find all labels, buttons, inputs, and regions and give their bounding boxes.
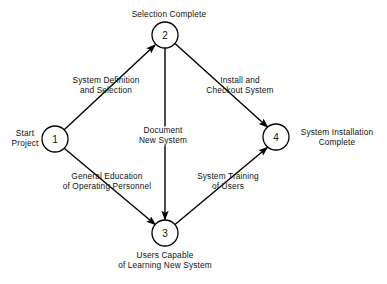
edge-1-to-2 [64,45,155,130]
edge-1-to-3 [64,148,155,224]
edge-2-to-4 [175,44,268,128]
network-diagram: 1 2 3 4 Start Project Selection Complete… [0,0,387,284]
node-3-number: 3 [162,228,168,239]
diagram-canvas: 1 2 3 4 [0,0,387,284]
node-2-number: 2 [162,30,168,41]
edges-group [64,44,267,225]
edge-3-to-4 [175,148,267,225]
node-1-number: 1 [52,134,58,145]
node-4-number: 4 [273,132,279,143]
